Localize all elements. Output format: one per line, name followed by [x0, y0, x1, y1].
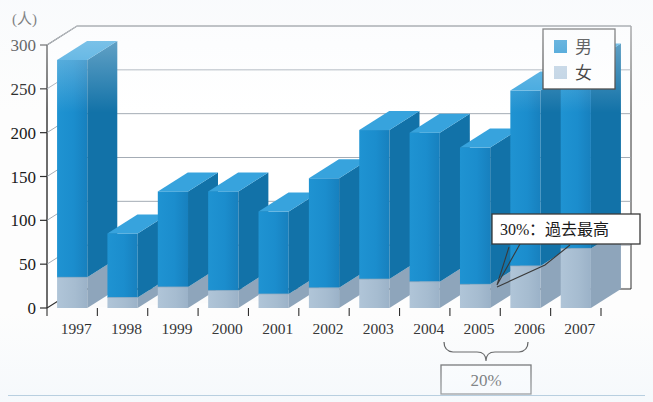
bar-segment-female-front	[561, 248, 591, 308]
bracket-annotation: 20%	[441, 342, 531, 394]
bar-segment-female-front	[208, 290, 238, 308]
x-tick-label-2002: 2002	[313, 320, 344, 337]
x-tick-label-2005: 2005	[464, 320, 495, 337]
y-tick-label: 0	[28, 299, 37, 318]
legend-label-female: 女	[575, 64, 592, 83]
bar-segment-female-front	[107, 297, 137, 308]
bar-segment-male-front	[158, 191, 188, 287]
y-tick-label: 50	[19, 255, 36, 274]
bar-segment-male-front	[410, 133, 440, 282]
y-axis-unit-label: (人)	[12, 11, 37, 28]
bracket-curly	[444, 342, 528, 361]
bar-segment-female-front	[309, 288, 339, 308]
callout-text: 30%：過去最高	[500, 221, 609, 238]
legend-swatch-male	[554, 40, 567, 53]
bottom-rule	[8, 395, 645, 396]
y-tick-label: 200	[11, 124, 37, 143]
legend-swatch-female	[554, 66, 567, 79]
bar-segment-male-front	[309, 178, 339, 288]
bar-segment-male-front	[57, 60, 87, 277]
x-tick-label-2006: 2006	[514, 320, 545, 337]
legend: 男 女	[543, 29, 615, 89]
x-tick-label-1998: 1998	[111, 320, 142, 337]
bracket-text: 20%	[470, 371, 501, 390]
bar-segment-female-front	[460, 284, 490, 308]
y-tick-label: 100	[11, 211, 37, 230]
bar-segment-female-front	[57, 277, 87, 308]
y-tick-label: 250	[11, 80, 37, 99]
chart-container: 050100150200250300 199719981999200020012…	[0, 0, 653, 402]
bar-segment-female-front	[359, 279, 389, 308]
x-tick-label-2003: 2003	[363, 320, 394, 337]
x-tick-group: 1997199819992000200120022003200420052006…	[47, 308, 601, 337]
y-tick-label: 150	[11, 168, 37, 187]
bar-chart-svg: 050100150200250300 199719981999200020012…	[0, 0, 653, 402]
y-tick-group: 050100150200250300	[11, 36, 48, 318]
legend-label-male: 男	[575, 38, 592, 57]
x-tick-label-2007: 2007	[564, 320, 595, 337]
x-tick-label-2001: 2001	[262, 320, 293, 337]
bar-segment-male-front	[359, 130, 389, 279]
x-tick-label-1999: 1999	[161, 320, 192, 337]
bar-segment-male-front	[259, 212, 289, 294]
bar-segment-female-front	[410, 282, 440, 308]
x-tick-label-1997: 1997	[61, 320, 92, 337]
bar-segment-female-front	[158, 287, 188, 308]
bar-segment-male-front	[208, 191, 238, 290]
bar-segment-male-front	[460, 148, 490, 285]
bar-segment-male-front	[107, 233, 137, 297]
x-tick-label-2000: 2000	[212, 320, 243, 337]
y-tick-label: 300	[11, 36, 37, 55]
bar-segment-female-front	[510, 266, 540, 308]
bar-segment-female-front	[259, 294, 289, 308]
x-tick-label-2004: 2004	[413, 320, 444, 337]
